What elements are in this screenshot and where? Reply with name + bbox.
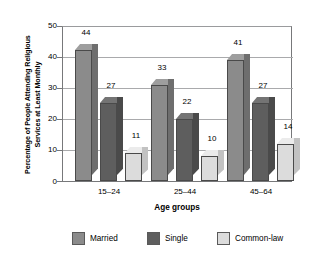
- bar-front-face: [252, 103, 269, 181]
- bar-value-married-25-44: 33: [148, 64, 176, 72]
- bar-value-single-45-64: 27: [249, 82, 277, 90]
- bar-chart-figure: Percentage of People Attending Religious…: [0, 0, 313, 261]
- legend-label-married: Married: [90, 234, 118, 243]
- bar-front-face: [151, 85, 168, 181]
- legend-label-single: Single: [165, 234, 188, 243]
- bar-married-25-44[interactable]: 33: [151, 72, 174, 181]
- x-tick-label-25-44: 25–44: [150, 188, 220, 196]
- legend-item-married[interactable]: Married: [72, 230, 118, 246]
- bar-value-married-15-24: 44: [72, 29, 100, 37]
- bar-single-15-24[interactable]: 27: [100, 91, 123, 181]
- chart-legend: Married Single Common-law: [62, 230, 302, 248]
- plot-area: 44 27 11 33 22: [62, 26, 292, 182]
- x-axis-title: Age groups: [62, 203, 292, 212]
- y-tick-label-10: 10: [37, 146, 57, 154]
- bar-front-face: [100, 103, 117, 181]
- legend-label-common-law: Common-law: [235, 234, 283, 243]
- y-tick-label-30: 30: [37, 84, 57, 92]
- bar-front-face: [176, 119, 193, 181]
- bar-value-married-45-64: 41: [224, 39, 252, 47]
- x-tick-label-45-64: 45–64: [226, 188, 296, 196]
- bar-value-common-law-45-64: 14: [274, 123, 302, 131]
- bar-value-common-law-25-44: 10: [198, 135, 226, 143]
- bar-side-face: [168, 79, 174, 175]
- legend-item-common-law[interactable]: Common-law: [217, 230, 283, 246]
- bar-married-45-64[interactable]: 41: [227, 47, 250, 181]
- bar-common-law-25-44[interactable]: 10: [201, 144, 224, 181]
- bar-front-face: [201, 156, 218, 181]
- legend-swatch-icon-married: [72, 232, 85, 245]
- legend-swatch-icon-single: [147, 232, 160, 245]
- legend-item-single[interactable]: Single: [147, 230, 188, 246]
- y-axis-title: Percentage of People Attending Religious…: [23, 10, 42, 200]
- bar-side-face: [244, 54, 250, 175]
- y-tick-label-0: 0: [37, 178, 57, 186]
- bar-value-single-25-44: 22: [173, 98, 201, 106]
- y-tick-label-40: 40: [37, 53, 57, 61]
- bar-common-law-15-24[interactable]: 11: [125, 141, 148, 181]
- y-tick-label-50: 50: [37, 22, 57, 30]
- bar-side-face: [142, 147, 148, 175]
- bar-side-face: [294, 138, 300, 175]
- legend-swatch-icon-common-law: [217, 232, 230, 245]
- bar-side-face: [193, 113, 199, 175]
- bar-value-common-law-15-24: 11: [122, 132, 150, 140]
- bar-single-25-44[interactable]: 22: [176, 106, 199, 181]
- bar-front-face: [75, 50, 92, 181]
- bar-value-single-15-24: 27: [97, 82, 125, 90]
- bar-side-face: [269, 97, 275, 175]
- bar-side-face: [92, 44, 98, 175]
- bar-single-45-64[interactable]: 27: [252, 91, 275, 181]
- x-tick-label-15-24: 15–24: [74, 188, 144, 196]
- bar-common-law-45-64[interactable]: 14: [277, 131, 300, 181]
- bar-front-face: [277, 144, 294, 181]
- y-tick-label-20: 20: [37, 115, 57, 123]
- bar-front-face: [125, 153, 142, 181]
- bar-front-face: [227, 60, 244, 181]
- bar-side-face: [218, 150, 224, 175]
- bar-married-15-24[interactable]: 44: [75, 44, 98, 181]
